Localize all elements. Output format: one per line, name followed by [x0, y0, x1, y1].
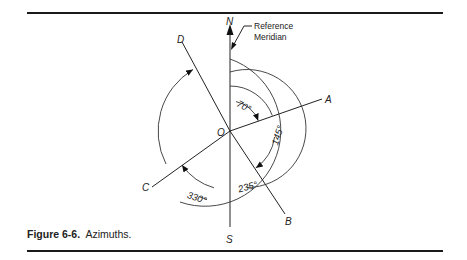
angle-145: 145°	[269, 124, 286, 146]
line-d	[182, 42, 230, 131]
arc-145-part1	[230, 86, 272, 116]
caption-text: Azimuths.	[85, 228, 131, 240]
caption-number: Figure 6-6.	[27, 228, 80, 240]
label-b: B	[285, 216, 292, 227]
bottom-rule	[27, 250, 443, 252]
angle-235: 235°	[236, 179, 259, 195]
arc-235	[182, 165, 214, 188]
reference-leader	[234, 26, 253, 45]
north-label: N	[226, 16, 234, 27]
reference-note-line2: Meridian	[254, 32, 287, 42]
azimuth-diagram: N S A B C D O 70° 145° 235° 330° Referen…	[0, 0, 467, 260]
label-c: C	[142, 182, 150, 193]
south-label: S	[226, 234, 233, 245]
center-label: O	[217, 127, 225, 138]
leader-arrow-icon	[231, 42, 237, 50]
angle-330: 330°	[186, 189, 208, 206]
figure-caption: Figure 6-6. Azimuths.	[27, 228, 131, 240]
angle-70: 70°	[235, 98, 253, 115]
label-a: A	[324, 94, 332, 105]
reference-note-line1: Reference	[254, 21, 293, 31]
arc-330	[158, 70, 193, 165]
label-d: D	[177, 34, 184, 45]
